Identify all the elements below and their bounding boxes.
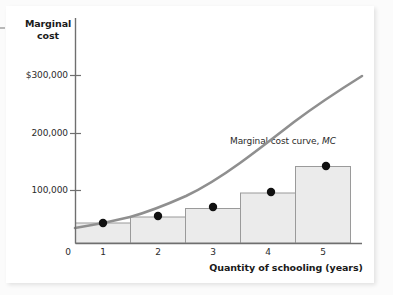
marginal-cost-chart: Marginal cost $300,000 200,000 100,000 0… [0,0,393,295]
data-point-3 [209,203,217,211]
bar-4 [241,193,296,243]
data-point-1 [99,219,107,227]
data-point-5 [322,162,330,170]
data-point-2 [154,212,162,220]
bar-3 [186,209,241,244]
plot-area [0,0,393,295]
bar-2 [131,217,186,243]
bar-5 [296,167,351,244]
data-point-4 [267,188,275,196]
